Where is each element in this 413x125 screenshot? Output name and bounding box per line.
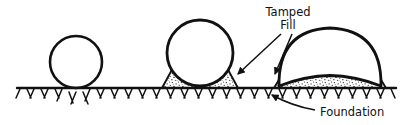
- stage-2-assembly: [162, 20, 238, 88]
- tamped-fill-label-line1: Tamped: [264, 5, 310, 19]
- ground-assembly: [16, 88, 396, 104]
- stage-2-form-outline: [167, 20, 233, 86]
- construction-sequence-diagram: Tamped Fill Foundation: [0, 0, 413, 125]
- foundation-arrow: [272, 95, 315, 110]
- stage-1-circular-form: [50, 36, 102, 88]
- foundation-label: Foundation: [320, 105, 384, 119]
- stage-1-form-outline: [50, 36, 102, 88]
- ground-hatching: [16, 89, 395, 104]
- diagram-canvas: Tamped Fill Foundation: [0, 0, 413, 125]
- tamped-fill-label-line2: Fill: [280, 18, 295, 32]
- tamped-fill-arrow-left: [238, 34, 281, 74]
